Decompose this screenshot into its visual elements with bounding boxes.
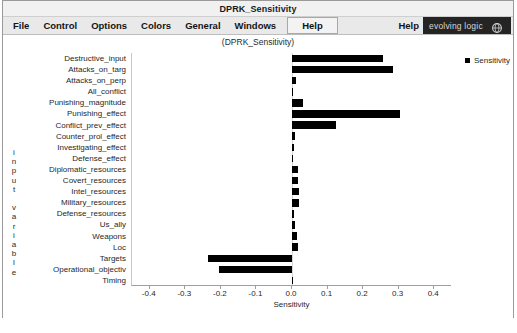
- x-axis-tick-label: 0.2: [357, 289, 368, 298]
- bar-row: [132, 231, 451, 242]
- bar-row: [132, 219, 451, 230]
- y-axis-label: Intel_resources: [71, 186, 126, 197]
- bar-intel-resources[interactable]: [292, 188, 299, 195]
- menu-control[interactable]: Control: [37, 18, 83, 33]
- plot-inner: [132, 53, 451, 285]
- bar-row: [132, 86, 451, 97]
- legend-label-sensitivity: Sensitivity: [474, 56, 510, 65]
- y-axis-label: Operational_objectiv: [53, 264, 126, 275]
- y-axis-label: Diplomatic_resources: [49, 164, 126, 175]
- plot-area: [131, 53, 451, 286]
- bar-row: [132, 131, 451, 142]
- y-axis-label: Attacks_on_perp: [66, 75, 126, 86]
- bar-row: [132, 153, 451, 164]
- brand-logo[interactable]: evolving logic: [423, 17, 511, 34]
- y-axis-label: Military_resources: [61, 197, 126, 208]
- window-title: DPRK_Sensitivity: [219, 4, 296, 14]
- y-axis-label: All_conflict: [88, 86, 126, 97]
- chart-subtitle-bar: (DPRK_Sensitivity): [3, 35, 513, 48]
- bar-row: [132, 53, 451, 64]
- bar-us-ally[interactable]: [292, 221, 295, 228]
- bar-defense-resources[interactable]: [292, 210, 294, 217]
- bar-row: [132, 75, 451, 86]
- bar-diplomatic-resources[interactable]: [292, 166, 298, 173]
- chart-subtitle: (DPRK_Sensitivity): [222, 37, 294, 47]
- x-axis-tick-label: 0.0: [285, 289, 296, 298]
- bar-punishing-magnitude[interactable]: [292, 99, 303, 106]
- brand-label: evolving logic: [429, 21, 483, 31]
- menu-help-button[interactable]: Help: [287, 17, 338, 34]
- bar-row: [132, 164, 451, 175]
- menu-windows[interactable]: Windows: [229, 18, 283, 33]
- bar-timing[interactable]: [292, 277, 293, 284]
- x-axis-tick-label: 0.4: [428, 289, 439, 298]
- bar-all-conflict[interactable]: [292, 88, 293, 95]
- bar-row: [132, 253, 451, 264]
- bar-conflict-prev-effect[interactable]: [292, 121, 336, 128]
- globe-icon: [491, 20, 503, 32]
- bar-operational-objectiv[interactable]: [219, 266, 292, 273]
- y-axis-label: Punishing_effect: [67, 108, 126, 119]
- y-axis-label: Weapons: [92, 231, 126, 242]
- menu-options[interactable]: Options: [85, 18, 133, 33]
- bar-punishing-effect[interactable]: [292, 110, 400, 117]
- chart-legend: Sensitivity: [465, 56, 510, 65]
- x-axis-tick-label: -0.4: [142, 289, 156, 298]
- y-axis-label: Conflict_prev_effect: [55, 120, 126, 131]
- y-axis-label: Covert_resources: [63, 175, 126, 186]
- x-axis-tick-label: 0.3: [392, 289, 403, 298]
- x-axis-tick-label: 0.1: [321, 289, 332, 298]
- y-axis-label: Timing: [102, 275, 126, 286]
- menubar: File Control Options Colors General Wind…: [3, 16, 513, 35]
- bar-loc[interactable]: [292, 243, 298, 250]
- y-axis-label: Destructive_input: [64, 53, 126, 64]
- bar-row: [132, 275, 451, 286]
- y-axis-label: Loc: [113, 242, 126, 253]
- window-titlebar: DPRK_Sensitivity: [3, 1, 513, 16]
- y-axis-label: Counter_prol_effect: [56, 131, 126, 142]
- application-window: DPRK_Sensitivity File Control Options Co…: [2, 0, 514, 318]
- y-axis-label: Defense_effect: [72, 153, 126, 164]
- y-axis-label: Investigating_effect: [57, 142, 126, 153]
- x-axis-tick-label: -0.2: [213, 289, 227, 298]
- x-axis-title: Sensitivity: [131, 300, 452, 309]
- menu-help-right[interactable]: Help: [394, 18, 423, 33]
- bar-row: [132, 64, 451, 75]
- desktop-background: [0, 318, 517, 333]
- bar-defense-effect[interactable]: [292, 155, 293, 162]
- menu-general[interactable]: General: [179, 18, 226, 33]
- y-axis-label: Defense_resources: [57, 208, 126, 219]
- bar-military-resources[interactable]: [292, 199, 299, 206]
- application-root: DPRK_Sensitivity File Control Options Co…: [0, 0, 517, 333]
- y-axis-labels: Destructive_inputAttacks_on_targAttacks_…: [17, 53, 129, 286]
- bar-attacks-on-targ[interactable]: [292, 66, 393, 73]
- bar-row: [132, 97, 451, 108]
- y-axis-label: Attacks_on_targ: [68, 64, 126, 75]
- x-axis-tick-label: -0.3: [177, 289, 191, 298]
- x-axis-tick-label: -0.1: [249, 289, 263, 298]
- bar-row: [132, 120, 451, 131]
- bar-row: [132, 197, 451, 208]
- bar-attacks-on-perp[interactable]: [292, 77, 296, 84]
- bar-row: [132, 175, 451, 186]
- chart-canvas: input variable Destructive_inputAttacks_…: [3, 48, 513, 318]
- bar-row: [132, 242, 451, 253]
- bar-destructive-input[interactable]: [292, 55, 383, 62]
- bar-row: [132, 142, 451, 153]
- bar-investigating-effect[interactable]: [292, 144, 294, 151]
- bar-targets[interactable]: [208, 255, 292, 262]
- bar-row: [132, 264, 451, 275]
- bar-covert-resources[interactable]: [292, 177, 298, 184]
- y-axis-label: Targets: [100, 253, 126, 264]
- bar-row: [132, 208, 451, 219]
- y-axis-label: Us_ally: [100, 219, 126, 230]
- menu-file[interactable]: File: [7, 18, 35, 33]
- bar-row: [132, 108, 451, 119]
- bar-counter-prol-effect[interactable]: [292, 132, 295, 139]
- legend-swatch-sensitivity: [465, 58, 470, 63]
- menu-colors[interactable]: Colors: [135, 18, 177, 33]
- bar-weapons[interactable]: [292, 232, 297, 239]
- bar-row: [132, 186, 451, 197]
- y-axis-label: Punishing_magnitude: [49, 97, 126, 108]
